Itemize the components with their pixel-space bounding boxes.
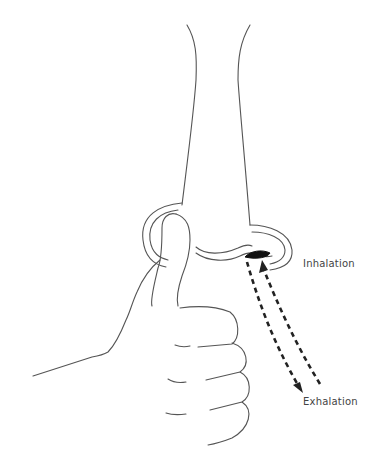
nose-bridge-left-line bbox=[182, 25, 196, 205]
inhalation-dashed-line bbox=[264, 270, 320, 384]
hand-back-line bbox=[33, 260, 160, 376]
knuckle-crease-1 bbox=[175, 345, 190, 347]
nose-left-wing-inner bbox=[150, 210, 178, 260]
finger-index bbox=[180, 307, 238, 347]
thumb-outline-front bbox=[151, 214, 176, 306]
nose-tip-base bbox=[196, 245, 252, 253]
exhalation-arrowhead-icon bbox=[293, 382, 303, 393]
exhalation-dashed-line bbox=[247, 262, 298, 385]
exhalation-label: Exhalation bbox=[303, 396, 358, 407]
thumb-outline-back bbox=[176, 214, 190, 306]
nose-bridge-right-line bbox=[238, 25, 250, 225]
nostril-breathing-illustration bbox=[0, 0, 375, 463]
inhalation-arrowhead-icon bbox=[259, 260, 268, 273]
knuckle-crease-2 bbox=[168, 379, 186, 383]
nose-right-wing-inner bbox=[252, 232, 285, 264]
inhalation-label: Inhalation bbox=[303, 258, 355, 269]
knuckle-crease-3 bbox=[166, 413, 186, 415]
finger-middle bbox=[206, 343, 246, 380]
